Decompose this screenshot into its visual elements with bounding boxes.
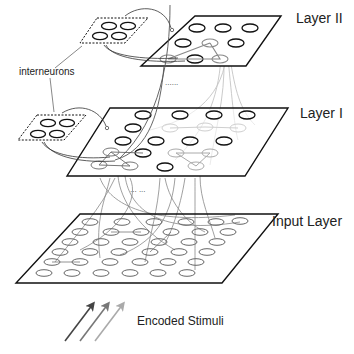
encoded-stimuli-arrows (65, 304, 123, 341)
interneurons-label: interneurons (19, 66, 75, 77)
input-layer-plane (16, 214, 278, 283)
arrow-dark-icon (65, 304, 93, 341)
ellipsis-layer1-input: ... ... (130, 185, 146, 194)
interneurons-leader-lines (50, 46, 82, 112)
arrow-light-icon (95, 304, 123, 341)
encoded-stimuli-label: Encoded Stimuli (137, 314, 224, 328)
layer1-plane (67, 108, 288, 176)
input-layer-label: Input Layer (272, 213, 342, 229)
layer1-label: Layer I (300, 105, 343, 121)
network-diagram: ...... ... ... (0, 0, 354, 354)
layer2-label: Layer II (296, 10, 343, 26)
arrow-mid-icon (80, 304, 108, 341)
ellipsis-layer2-layer1: ...... (165, 78, 178, 87)
